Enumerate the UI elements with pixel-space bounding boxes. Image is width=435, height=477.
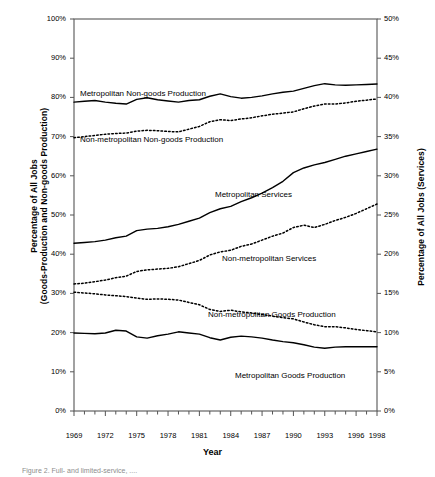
x-axis-tick-label: 1998	[357, 431, 397, 440]
series-label-non-metropolitan-goods-production: Non-metropolitan Goods Production	[208, 310, 336, 319]
series-label-metropolitan-services: Metropolitan Services	[215, 190, 292, 199]
y-axis-left-title-line2: (Goods-Production and Non-goods Producti…	[39, 71, 49, 341]
y-axis-left-tick-label: 10%	[26, 367, 66, 376]
y-axis-left-tick-label: 100%	[26, 14, 66, 23]
bottom-axis-ticks	[74, 411, 377, 416]
series-label-non-metropolitan-non-goods-production: Non-metropolitan Non-goods Production	[80, 135, 223, 144]
y-axis-left-title: Percentage of All Jobs (Goods-Production…	[29, 71, 49, 341]
series-label-metropolitan-non-goods-production: Metropolitan Non-goods Production	[80, 89, 206, 98]
series-line-metropolitan-goods-production	[74, 330, 377, 348]
left-axis-ticks	[70, 19, 74, 411]
series-label-metropolitan-goods-production: Metropolitan Goods Production	[235, 371, 345, 380]
plot-frame	[74, 19, 377, 411]
right-axis-ticks	[377, 19, 381, 411]
figure-caption: Figure 2. Full- and limited-service, ...…	[22, 466, 422, 475]
y-axis-left-tick-label: 0%	[26, 406, 66, 415]
figure-container: 0%10%20%30%40%50%60%70%80%90%100%0%5%10%…	[0, 0, 435, 477]
series-line-non-metropolitan-services	[74, 204, 377, 284]
x-axis-title-text: Year	[203, 447, 222, 457]
data-series-group	[74, 84, 377, 349]
y-axis-right-tick-label: 0%	[384, 406, 424, 415]
series-line-non-metropolitan-non-goods-production	[74, 99, 377, 138]
y-axis-right-tick-label: 45%	[384, 53, 424, 62]
series-label-non-metropolitan-services: Non-metropolitan Services	[222, 254, 316, 263]
y-axis-left-title-line1: Percentage of All Jobs	[29, 71, 39, 341]
y-axis-left-tick-label: 90%	[26, 53, 66, 62]
y-axis-right-tick-label: 50%	[384, 14, 424, 23]
x-axis-title: Year	[0, 447, 435, 457]
y-axis-right-tick-label: 5%	[384, 367, 424, 376]
y-axis-right-title: Percentage of All Jobs (Services)	[416, 92, 426, 342]
